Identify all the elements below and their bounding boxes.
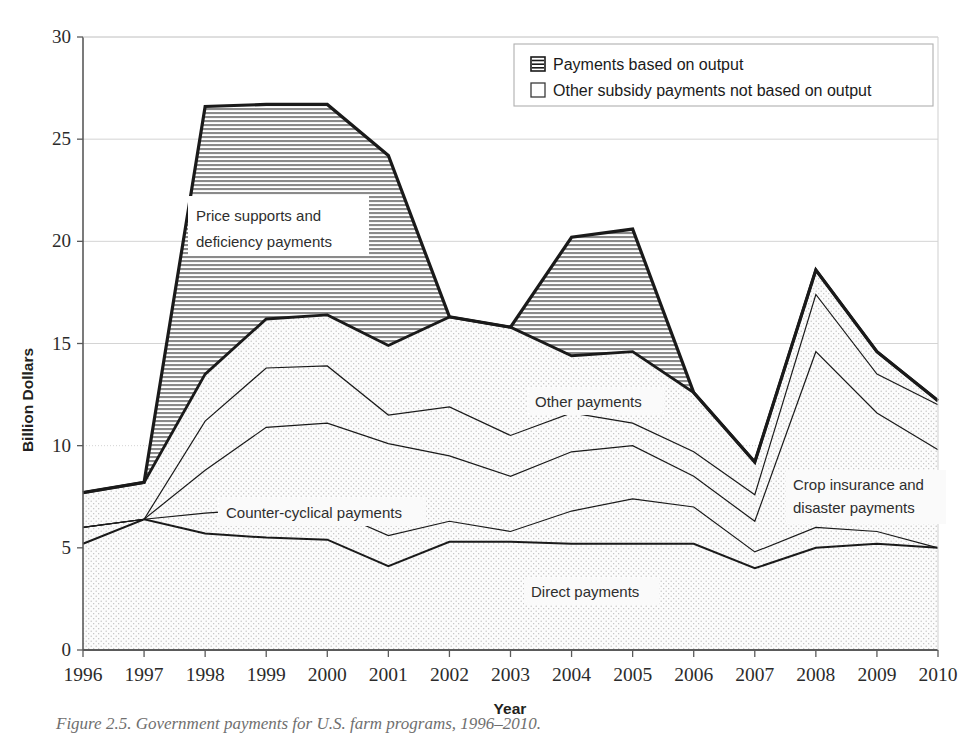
- x-tick-label: 2002: [430, 664, 469, 685]
- y-tick-label: 15: [52, 333, 71, 354]
- legend: Payments based on output Other subsidy p…: [514, 44, 933, 106]
- y-tick-label: 10: [52, 435, 71, 456]
- y-tick-label: 30: [52, 26, 71, 47]
- x-tick-label: 1998: [186, 664, 225, 685]
- x-tick-label: 2001: [369, 664, 408, 685]
- annotation-other-payments-line1: Other payments: [535, 393, 642, 410]
- x-tick-label: 2009: [857, 664, 896, 685]
- x-tick-label: 2007: [735, 664, 774, 685]
- hatched-horizontal-lines-swatch: [531, 57, 545, 71]
- x-tick-label: 1996: [64, 664, 103, 685]
- x-axis-ticks: 1996199719981999200020012002200320042005…: [64, 650, 958, 685]
- annotation-crop-insurance-line2: disaster payments: [793, 499, 915, 516]
- annotation-counter-cyclical-line1: Counter-cyclical payments: [226, 504, 402, 521]
- annotation-counter-cyclical: Counter-cyclical payments: [218, 498, 426, 526]
- x-tick-label: 2006: [674, 664, 713, 685]
- x-tick-label: 1997: [125, 664, 164, 685]
- x-tick-label: 1999: [247, 664, 286, 685]
- legend-label-payments-based-on-output: Payments based on output: [553, 56, 744, 73]
- legend-item-payments-based-on-output[interactable]: Payments based on output: [531, 56, 744, 73]
- y-tick-label: 25: [52, 128, 71, 149]
- figure-caption: Figure 2.5. Government payments for U.S.…: [56, 714, 541, 734]
- x-tick-label: 2005: [613, 664, 652, 685]
- x-tick-label: 2003: [491, 664, 530, 685]
- y-tick-label: 0: [62, 639, 72, 660]
- x-tick-label: 2004: [552, 664, 591, 685]
- legend-label-other-subsidy-payments: Other subsidy payments not based on outp…: [553, 82, 872, 99]
- annotation-direct-payments: Direct payments: [524, 578, 659, 605]
- area-chart: 051015202530 199619971998199920002001200…: [0, 0, 978, 741]
- figure-container: 051015202530 199619971998199920002001200…: [0, 0, 978, 741]
- x-tick-label: 2000: [308, 664, 347, 685]
- y-tick-label: 20: [52, 230, 71, 251]
- y-tick-label: 5: [62, 537, 72, 558]
- annotation-crop-insurance: Crop insurance and disaster payments: [786, 470, 946, 524]
- annotation-price-supports: Price supports and deficiency payments: [188, 196, 369, 256]
- y-axis-ticks: 051015202530: [52, 26, 83, 660]
- x-tick-label: 2010: [919, 664, 958, 685]
- x-tick-label: 2008: [796, 664, 835, 685]
- annotation-price-supports-line1: Price supports and: [196, 207, 321, 224]
- annotation-other-payments: Other payments: [528, 388, 664, 415]
- annotation-crop-insurance-line1: Crop insurance and: [793, 476, 924, 493]
- annotation-price-supports-line2: deficiency payments: [196, 233, 332, 250]
- annotation-direct-payments-line1: Direct payments: [531, 583, 639, 600]
- legend-item-other-subsidy-payments[interactable]: Other subsidy payments not based on outp…: [531, 82, 872, 99]
- y-axis-title: Billion Dollars: [19, 348, 36, 452]
- empty-white-square-swatch: [531, 83, 545, 97]
